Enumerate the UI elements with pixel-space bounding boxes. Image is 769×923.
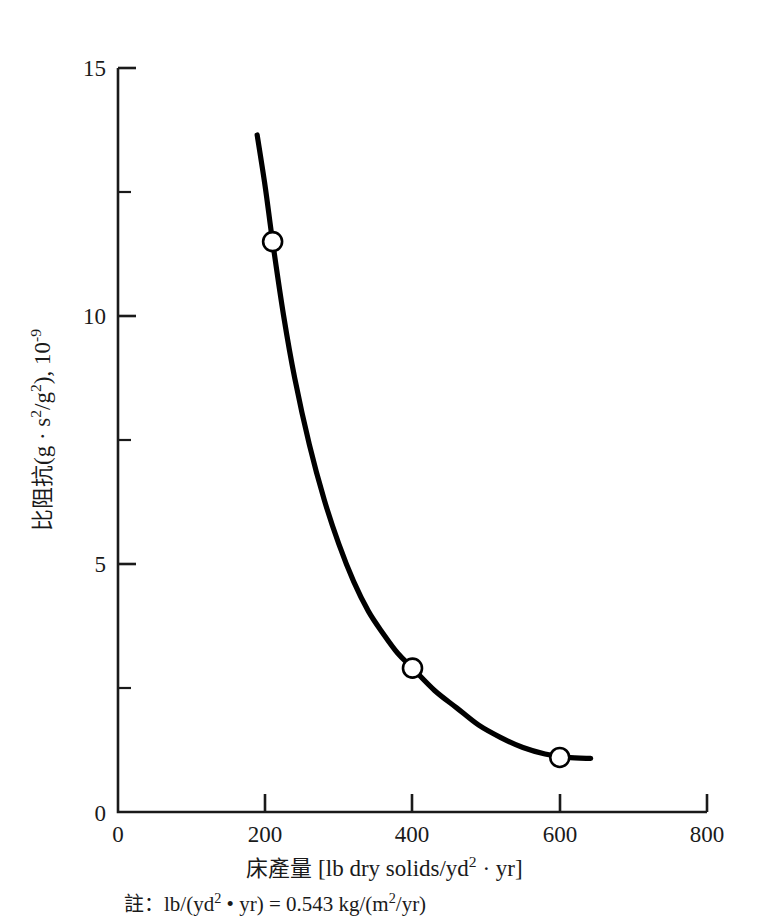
x-tick-label-0: 0	[112, 823, 124, 846]
figure-note-a: lb/(yd	[164, 892, 214, 916]
x-axis-title-units: [lb dry solids/yd	[318, 856, 469, 881]
x-tick-label-800: 800	[690, 823, 725, 846]
y-axis-major-ticks	[118, 68, 136, 564]
plot-canvas	[0, 0, 769, 923]
y-axis-title: 比阻抗(g · s2/g2), 10-9	[25, 329, 56, 531]
data-point-marker	[263, 232, 282, 251]
figure-note-c: /yr)	[396, 892, 426, 916]
figure-note-cjk: 註	[124, 892, 144, 916]
x-tick-label-600: 600	[543, 823, 578, 846]
x-axis-title-cjk: 床產量	[246, 856, 312, 881]
y-axis-title-exp-b: 2	[27, 384, 44, 392]
y-axis-title-cjk: 比阻抗	[30, 465, 55, 531]
data-markers	[263, 232, 569, 767]
data-point-marker	[403, 659, 422, 678]
figure-note-separator: ：	[144, 892, 164, 916]
x-axis-major-ticks	[265, 794, 707, 812]
x-axis-title: 床產量 [lb dry solids/yd2 · yr]	[0, 851, 769, 882]
figure-note: 註：lb/(yd2 • yr) = 0.543 kg/(m2/yr)	[124, 888, 426, 917]
y-axis-title-exp-a: 2	[27, 410, 44, 418]
x-axis-title-exp: 2	[469, 853, 477, 870]
y-tick-label-10: 10	[62, 305, 106, 328]
axis-spines	[118, 68, 707, 812]
y-axis-title-units-a: (g · s	[30, 418, 55, 465]
figure-note-b: • yr) = 0.543 kg/(m	[221, 892, 388, 916]
y-axis-title-exp-c: -9	[27, 329, 44, 342]
y-axis-title-units-c: ), 10	[30, 342, 55, 384]
y-tick-label-15: 15	[62, 57, 106, 80]
y-tick-label-0: 0	[62, 802, 106, 825]
data-series-curve	[257, 135, 591, 758]
data-point-marker	[550, 748, 569, 767]
x-tick-label-400: 400	[395, 823, 430, 846]
x-tick-label-200: 200	[248, 823, 283, 846]
y-tick-label-5: 5	[62, 553, 106, 576]
x-axis-title-units-tail: · yr]	[477, 856, 523, 881]
figure-note-exp-b: 2	[389, 890, 396, 906]
chart-figure: 15 10 5 0 0 200 400 600 800 比阻抗(g · s2/g…	[0, 0, 769, 923]
y-axis-title-units-b: /g	[30, 392, 55, 410]
y-axis-minor-ticks	[118, 192, 131, 688]
